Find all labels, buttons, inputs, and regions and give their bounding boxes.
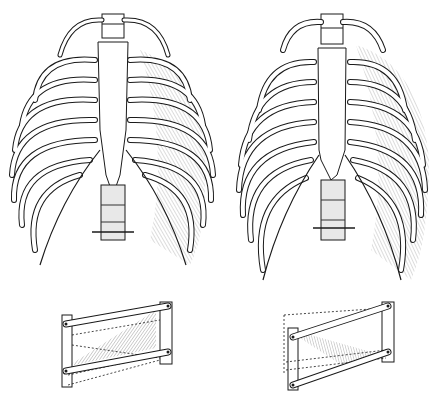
ribcage-left-drawing — [0, 0, 221, 300]
ribcage-right-illustration — [221, 0, 442, 300]
hinge-model-right — [260, 300, 420, 399]
hinge-model-left-drawing — [40, 300, 200, 399]
hinge-model-right-drawing — [260, 300, 420, 399]
ribcage-left-illustration — [0, 0, 221, 300]
ribcage-right-drawing — [221, 0, 442, 300]
hinge-model-left — [40, 300, 200, 399]
